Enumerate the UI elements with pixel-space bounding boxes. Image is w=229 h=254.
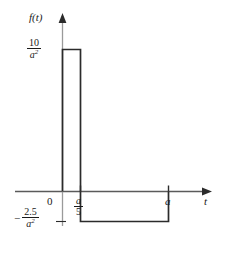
positive-level-fraction: 10 a2 [27,38,41,61]
tick-label-a: a [165,196,171,207]
origin-tick-label: 0 [47,196,53,207]
a-over-5-denominator: 5 [74,207,83,217]
tick-label-a-over-5: a 5 [74,196,83,218]
positive-level-label: 10 a2 [27,38,41,61]
positive-level-denominator-exponent: 2 [35,48,39,56]
negative-level-denominator-exponent: 2 [31,217,35,225]
positive-pulse-path [63,50,81,192]
y-axis-arrowhead [59,13,67,23]
negative-level-fraction: 2.5 a2 [22,207,39,230]
x-axis-label: t [204,196,207,207]
positive-level-denominator: a2 [27,49,41,61]
negative-pulse-path [81,192,169,222]
negative-level-label: − 2.5 a2 [14,207,39,230]
a-over-5-fraction: a 5 [74,196,83,218]
y-axis-label: f(t) [29,12,42,23]
negative-level-minus-sign: − [14,213,20,224]
negative-level-denominator: a2 [22,218,39,230]
function-plot-figure: f(t) t 0 10 a2 − 2.5 a2 a 5 a [0,0,229,254]
